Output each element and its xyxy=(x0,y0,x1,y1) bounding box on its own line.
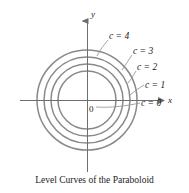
x-axis-label: x xyxy=(167,95,172,105)
leader-line-c3 xyxy=(122,55,132,70)
origin-label: 0 xyxy=(89,104,94,114)
level-label-c2: c = 2 xyxy=(137,62,157,72)
y-axis-label: y xyxy=(90,9,95,19)
level-label-c4: c = 4 xyxy=(109,31,129,41)
level-label-c3: c = 3 xyxy=(133,46,153,56)
figure-caption: Level Curves of the Paraboloid xyxy=(0,174,189,186)
level-label-c1: c = 1 xyxy=(145,80,165,90)
leader-line-c0 xyxy=(96,103,140,107)
contour-plot: y x 0 c = 4 c = 3 c = 2 c = 1 c = 0 xyxy=(0,0,189,193)
level-curves-figure: y x 0 c = 4 c = 3 c = 2 c = 1 c = 0 Leve… xyxy=(0,0,189,193)
level-label-c0: c = 0 xyxy=(141,98,161,108)
